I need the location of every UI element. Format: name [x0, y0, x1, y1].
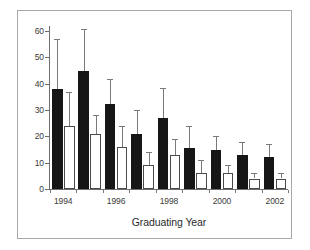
x-tick-label: 1994 [43, 197, 83, 206]
error-bar-cap-2002-black [266, 144, 272, 145]
error-bar-stem-1998-black [163, 88, 164, 118]
bar-1998-black [158, 118, 169, 189]
bar-1997-white [143, 165, 154, 189]
error-bar-cap-1995-white [93, 115, 99, 116]
error-bar-cap-1994-black [54, 39, 60, 40]
error-bar-stem-2000-black [216, 136, 217, 149]
figure: 0102030405060 19941996199820002002 Gradu… [0, 0, 310, 250]
x-tick-mark [50, 190, 51, 193]
bar-2002-white [276, 179, 287, 190]
error-bar-cap-2000-white [225, 165, 231, 166]
bar-1999-black [184, 148, 195, 189]
x-tick-label: 1996 [96, 197, 136, 206]
x-axis-line [49, 189, 288, 190]
plot-area: 0102030405060 19941996199820002002 [0, 0, 310, 250]
error-bar-cap-2001-black [239, 142, 245, 143]
error-bar-stem-1995-black [84, 29, 85, 71]
error-bar-cap-1998-white [172, 139, 178, 140]
error-bar-cap-1994-white [66, 92, 72, 93]
error-bar-stem-2000-white [228, 165, 229, 173]
bar-1996-white [117, 147, 128, 189]
bar-1998-white [170, 155, 181, 189]
bar-1995-white [90, 134, 101, 189]
y-tick-mark [45, 163, 49, 164]
error-bar-cap-1998-black [160, 88, 166, 89]
error-bar-stem-1995-white [96, 115, 97, 133]
error-bar-cap-1996-black [107, 79, 113, 80]
error-bar-stem-1999-white [201, 160, 202, 173]
error-bar-stem-1999-black [189, 126, 190, 148]
error-bar-cap-2000-black [213, 136, 219, 137]
error-bar-stem-1997-black [137, 110, 138, 134]
error-bar-stem-2001-black [242, 142, 243, 155]
y-tick-label: 10 [4, 159, 44, 167]
bar-2000-black [211, 150, 222, 190]
y-tick-mark [45, 136, 49, 137]
x-tick-mark [288, 190, 289, 193]
x-tick-mark [103, 190, 104, 193]
bar-1995-black [78, 71, 89, 189]
error-bar-stem-1994-black [57, 39, 58, 89]
y-tick-mark [45, 110, 49, 111]
x-axis-title: Graduating Year [50, 216, 288, 228]
error-bar-stem-1994-white [69, 92, 70, 126]
error-bar-cap-1999-white [198, 160, 204, 161]
y-tick-mark [45, 189, 49, 190]
error-bar-cap-1995-black [81, 29, 87, 30]
error-bar-stem-1997-white [149, 152, 150, 165]
error-bar-cap-1997-black [134, 110, 140, 111]
bar-1997-black [131, 134, 142, 189]
bar-2001-white [249, 179, 260, 190]
x-tick-mark [209, 190, 210, 193]
y-tick-label: 50 [4, 53, 44, 61]
x-tick-mark [156, 190, 157, 193]
bar-1994-black [52, 89, 63, 189]
x-tick-mark [129, 190, 130, 193]
bar-2000-white [223, 173, 234, 189]
x-tick-mark [182, 190, 183, 193]
bar-1994-white [64, 126, 75, 189]
bar-1996-black [105, 104, 116, 190]
error-bar-cap-1999-black [186, 126, 192, 127]
error-bar-stem-1996-black [110, 79, 111, 104]
y-tick-label: 30 [4, 106, 44, 114]
error-bar-cap-1997-white [146, 152, 152, 153]
x-tick-mark [235, 190, 236, 193]
error-bar-stem-1996-white [122, 126, 123, 147]
y-tick-label: 20 [4, 132, 44, 140]
y-tick-label: 0 [4, 185, 44, 193]
x-tick-label: 1998 [149, 197, 189, 206]
error-bar-cap-2001-white [251, 173, 257, 174]
error-bar-stem-2002-black [269, 144, 270, 157]
bar-1999-white [196, 173, 207, 189]
y-tick-mark [45, 84, 49, 85]
error-bar-stem-1998-white [175, 139, 176, 155]
y-axis-line [49, 26, 50, 190]
bar-2002-black [264, 157, 275, 189]
y-tick-mark [45, 31, 49, 32]
x-tick-mark [76, 190, 77, 193]
error-bar-cap-2002-white [278, 173, 284, 174]
y-tick-label: 60 [4, 27, 44, 35]
x-tick-label: 2002 [255, 197, 295, 206]
bar-2001-black [237, 155, 248, 189]
x-tick-label: 2000 [202, 197, 242, 206]
x-tick-mark [262, 190, 263, 193]
error-bar-cap-1996-white [119, 126, 125, 127]
y-tick-label: 40 [4, 80, 44, 88]
y-tick-mark [45, 57, 49, 58]
